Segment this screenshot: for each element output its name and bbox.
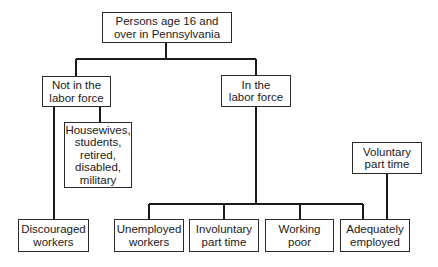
node-voluntary-part-time-label: Voluntary part time xyxy=(363,146,411,171)
node-root-label: Persons age 16 and over in Pennsylvania xyxy=(114,15,220,40)
node-involuntary-part-time: Involuntary part time xyxy=(189,219,259,252)
node-root: Persons age 16 and over in Pennsylvania xyxy=(102,12,232,43)
node-working-poor: Working poor xyxy=(265,219,334,252)
node-in-labor-force-label: In the labor force xyxy=(229,79,283,104)
node-housewives-etc-label: Housewives, students, retired, disabled,… xyxy=(65,124,130,187)
node-in-labor-force: In the labor force xyxy=(221,75,291,107)
node-not-in-labor-force: Not in the labor force xyxy=(42,76,111,107)
node-discouraged-workers-label: Discouraged workers xyxy=(21,223,86,248)
node-housewives-etc: Housewives, students, retired, disabled,… xyxy=(64,122,132,188)
node-unemployed-workers-label: Unemployed workers xyxy=(117,223,182,248)
node-voluntary-part-time: Voluntary part time xyxy=(352,142,422,174)
node-not-in-labor-force-label: Not in the labor force xyxy=(49,79,103,104)
node-adequately-employed-label: Adequately employed xyxy=(346,223,404,248)
node-involuntary-part-time-label: Involuntary part time xyxy=(196,223,252,248)
node-discouraged-workers: Discouraged workers xyxy=(18,219,89,252)
node-adequately-employed: Adequately employed xyxy=(340,219,410,252)
node-unemployed-workers: Unemployed workers xyxy=(114,219,184,252)
node-working-poor-label: Working poor xyxy=(279,223,321,248)
